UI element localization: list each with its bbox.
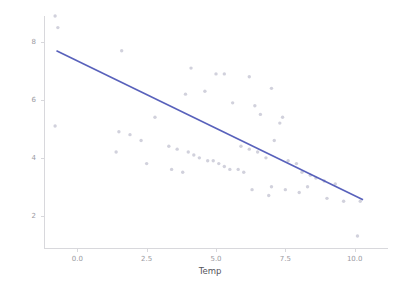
data-point [250,188,253,191]
data-point [167,145,170,148]
data-point [53,14,56,17]
x-tick-label: 5.0 [201,255,231,263]
data-point [253,104,256,107]
scatter-canvas [44,16,388,249]
x-tick-mark [355,249,356,252]
data-point [53,124,56,127]
data-point [325,197,328,200]
y-tick-mark [41,100,44,101]
data-point [306,185,309,188]
data-point [128,133,131,136]
data-point [359,200,362,203]
plot-area [44,16,388,249]
data-point [231,101,234,104]
x-tick-label: 7.5 [270,255,300,263]
y-tick-label: 4 [14,154,36,162]
data-point [284,188,287,191]
data-point [223,72,226,75]
y-tick-label: 2 [14,212,36,220]
data-point [256,150,259,153]
data-point [187,150,190,153]
data-point [264,156,267,159]
data-point [239,145,242,148]
data-point [145,162,148,165]
data-point [248,75,251,78]
data-point [278,121,281,124]
data-point [117,130,120,133]
x-tick-mark [77,249,78,252]
data-point [120,49,123,52]
data-point [356,234,359,237]
data-point [281,116,284,119]
data-point [170,168,173,171]
data-point [114,150,117,153]
x-tick-mark [285,249,286,252]
data-point [189,66,192,69]
data-point [273,139,276,142]
scatter-plot-figure: 2468 0.02.55.07.510.0 Temp Gas [0,0,420,288]
data-point [342,200,345,203]
y-tick-label: 6 [14,96,36,104]
data-point [153,116,156,119]
data-point [242,171,245,174]
data-point [212,159,215,162]
y-tick-label: 8 [14,38,36,46]
data-point [228,168,231,171]
y-tick-mark [41,216,44,217]
data-point [139,139,142,142]
data-point [295,162,298,165]
x-tick-label: 0.0 [62,255,92,263]
data-point [270,185,273,188]
data-point [267,194,270,197]
x-tick-mark [216,249,217,252]
x-tick-label: 2.5 [132,255,162,263]
data-point [298,191,301,194]
y-tick-mark [41,42,44,43]
y-tick-mark [41,158,44,159]
data-point [259,113,262,116]
data-points-group [53,14,362,237]
data-point [192,153,195,156]
data-point [206,159,209,162]
data-point [270,87,273,90]
data-point [217,162,220,165]
data-point [184,92,187,95]
x-axis-label: Temp [0,266,420,276]
data-point [203,90,206,93]
data-point [223,165,226,168]
data-point [56,26,59,29]
data-point [214,72,217,75]
data-point [236,168,239,171]
data-point [198,156,201,159]
x-tick-mark [147,249,148,252]
data-point [181,171,184,174]
data-point [175,147,178,150]
data-point [248,147,251,150]
x-tick-label: 10.0 [340,255,370,263]
regression-line [56,51,363,200]
